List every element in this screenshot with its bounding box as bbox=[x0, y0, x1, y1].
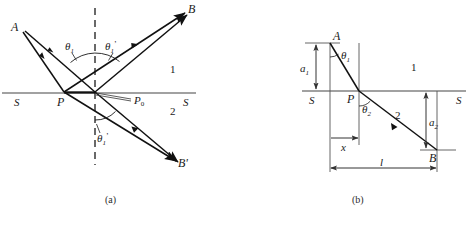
ray-a-to-p bbox=[23, 32, 64, 92]
caption-panel-b: (b) bbox=[352, 194, 364, 206]
label-medium-1-b: 1 bbox=[411, 61, 417, 73]
label-theta1-prime-reflection-a: θ1’ bbox=[105, 40, 117, 55]
label-theta1-b: θ1 bbox=[341, 49, 350, 64]
caption-panel-a: (a) bbox=[105, 194, 116, 206]
label-S-left-a: S bbox=[14, 96, 20, 108]
ray-a-to-p0 bbox=[25, 31, 95, 92]
label-point-A-a: A bbox=[10, 20, 19, 34]
label-point-P0-text: P0 bbox=[133, 94, 145, 108]
label-medium-2-a: 2 bbox=[170, 105, 176, 117]
label-S-left-b: S bbox=[309, 94, 315, 106]
label-point-B-a: B bbox=[188, 2, 196, 16]
label-point-P-b: P bbox=[346, 92, 355, 106]
ray-p-to-bprime bbox=[64, 92, 176, 161]
label-x-b: x bbox=[340, 141, 346, 153]
ray-P-to-B-arrowhead-b bbox=[391, 123, 398, 130]
panel-a: A B B' P S P0 S S 1 2 θ1 θ1’ θ1’ (a) bbox=[2, 2, 196, 206]
label-S-right-b: S bbox=[456, 94, 462, 106]
label-point-P-a: P bbox=[56, 95, 65, 109]
figure-root: A B B' P S P0 S S 1 2 θ1 θ1’ θ1’ (a) bbox=[0, 0, 475, 228]
label-point-A-b: A bbox=[332, 29, 341, 43]
label-l-b: l bbox=[380, 156, 383, 168]
label-theta1-incidence-a: θ1 bbox=[65, 40, 74, 55]
label-point-B-b: B bbox=[429, 151, 437, 165]
label-medium-2-b: 2 bbox=[395, 109, 401, 121]
label-medium-1-a: 1 bbox=[170, 63, 176, 75]
ray-p-to-b bbox=[64, 13, 185, 92]
ray-p0-to-b bbox=[95, 15, 187, 92]
label-point-B-prime-a: B' bbox=[178, 156, 188, 170]
optics-figure-svg: A B B' P S P0 S S 1 2 θ1 θ1’ θ1’ (a) bbox=[0, 0, 475, 228]
label-theta2-b: θ2 bbox=[362, 103, 371, 118]
panel-b: A B P S S 1 2 θ1 θ2 a1 a2 x l (b) bbox=[300, 29, 466, 206]
label-theta1-prime-refraction-a: θ1’ bbox=[97, 132, 109, 147]
label-a1-b: a1 bbox=[300, 62, 309, 77]
label-S-right-a: S bbox=[183, 96, 189, 108]
